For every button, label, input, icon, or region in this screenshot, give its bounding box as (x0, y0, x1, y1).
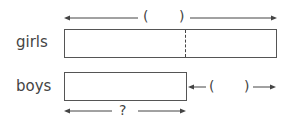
girls-label: girls (16, 33, 48, 51)
boys-unknown-label: ? (119, 102, 126, 118)
difference-open-paren: ( (209, 78, 214, 94)
girls-bar (64, 29, 277, 58)
girls-total-close-paren: ) (179, 8, 184, 24)
boys-label: boys (16, 77, 51, 95)
difference-close-paren: ) (244, 78, 249, 94)
girls-total-open-paren: ( (143, 8, 148, 24)
boys-bar (64, 72, 187, 101)
girls-bar-divider (185, 30, 186, 57)
